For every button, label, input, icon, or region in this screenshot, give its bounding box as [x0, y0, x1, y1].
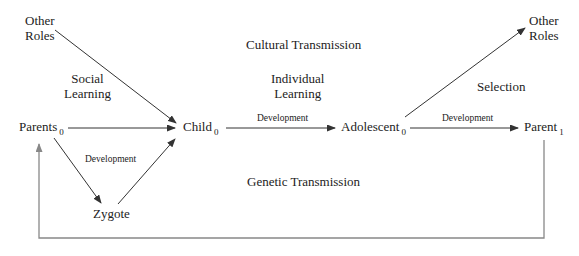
node-label: Child — [183, 119, 212, 134]
arrow-parents-to-zygote — [54, 138, 101, 203]
node-child0: Child0 — [183, 120, 218, 135]
node-subscript: 0 — [401, 127, 406, 137]
edge-label-adolescent-to-parent: Development — [442, 113, 493, 124]
region-label-line: Social — [64, 72, 111, 87]
edge-label-parents-zygote-child: Development — [85, 154, 136, 165]
node-other-roles-left: Other Roles — [25, 14, 55, 44]
evolution-diagram: Other Roles Parents0 Child0 Zygote Adole… — [0, 0, 579, 256]
region-genetic-transmission: Genetic Transmission — [247, 175, 360, 190]
region-label: Selection — [477, 79, 525, 94]
edge-label-child-to-adolescent: Development — [257, 113, 308, 124]
arrow-zygote-to-child — [118, 139, 175, 204]
node-label: Zygote — [93, 206, 130, 221]
region-selection: Selection — [477, 80, 525, 95]
node-label-line: Other — [529, 14, 559, 29]
region-label-line: Individual — [271, 72, 324, 87]
edge-label: Development — [442, 113, 493, 123]
arrow-adolescent-to-other-roles — [405, 28, 525, 117]
node-label-line: Roles — [529, 29, 559, 44]
edge-label: Development — [85, 154, 136, 164]
region-cultural-transmission: Cultural Transmission — [246, 38, 361, 53]
node-parent1: Parent1 — [524, 120, 564, 135]
node-label-line: Other — [25, 14, 55, 29]
node-label: Adolescent — [341, 119, 399, 134]
node-label-line: Roles — [25, 29, 55, 44]
node-subscript: 0 — [59, 127, 64, 137]
node-subscript: 1 — [559, 127, 564, 137]
node-parents0: Parents0 — [19, 120, 64, 135]
region-label-line: Learning — [64, 87, 111, 102]
region-social-learning: Social Learning — [64, 72, 111, 102]
region-individual-learning: Individual Learning — [271, 72, 324, 102]
node-other-roles-right: Other Roles — [529, 14, 559, 44]
node-zygote: Zygote — [93, 207, 130, 222]
region-label-line: Learning — [271, 87, 324, 102]
node-subscript: 0 — [214, 127, 219, 137]
edge-label: Development — [257, 113, 308, 123]
node-label: Parents — [19, 119, 57, 134]
region-label: Genetic Transmission — [247, 174, 360, 189]
node-label: Parent — [524, 119, 557, 134]
region-label: Cultural Transmission — [246, 37, 361, 52]
node-adolescent0: Adolescent0 — [341, 120, 406, 135]
